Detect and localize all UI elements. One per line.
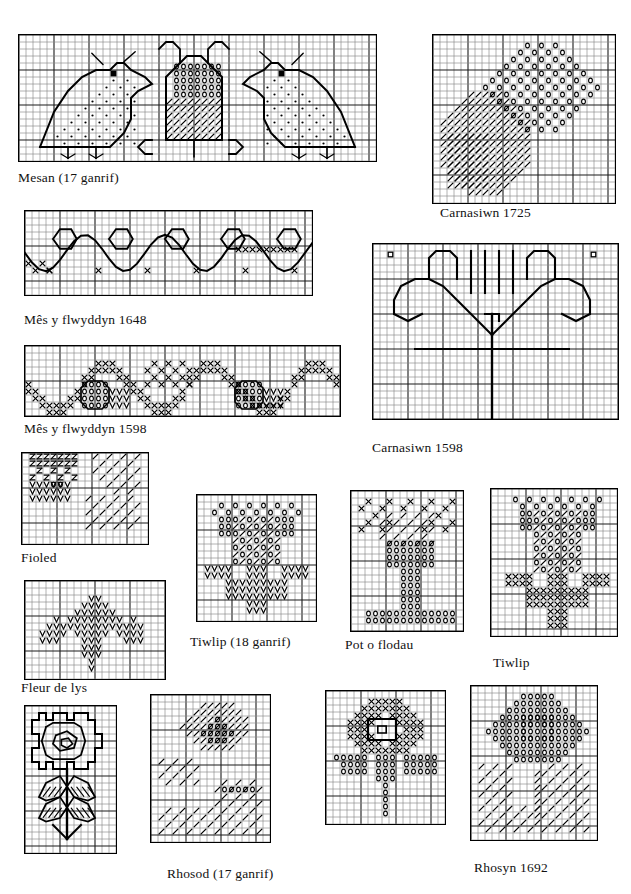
pattern-chart-rhosyn-plant [24, 705, 117, 854]
stitch-grid [21, 452, 149, 545]
stitch-symbols-layer [373, 244, 618, 419]
stitch-grid [372, 243, 619, 420]
stitch-symbols-layer [471, 686, 597, 840]
pattern-chart-fioled [21, 452, 149, 545]
stitch-symbols-layer [351, 491, 463, 631]
pattern-chart-rhosod-17-a [150, 694, 271, 843]
stitch-symbols-layer [433, 35, 615, 203]
stitch-grid [150, 694, 271, 843]
stitch-symbols-layer [326, 691, 445, 824]
stitch-grid [432, 34, 616, 204]
pattern-chart-pot-o-flodau [350, 490, 464, 632]
stitch-symbols-layer [151, 695, 270, 842]
stitch-symbols-layer [25, 706, 116, 853]
chart-caption-tiwlip-18: Tiwlip (18 ganrif) [190, 634, 291, 650]
stitch-grid [490, 488, 618, 637]
stitch-symbols-layer [25, 581, 165, 679]
chart-caption-fioled: Fioled [21, 550, 57, 566]
chart-caption-mes-y-flwyddyn-1598: Mês y flwyddyn 1598 [24, 421, 147, 437]
stitch-grid [18, 34, 377, 162]
stitch-grid [325, 690, 446, 825]
pattern-chart-rhosyn-1692 [470, 685, 598, 841]
stitch-grid [350, 490, 464, 632]
pattern-chart-fleur-de-lys [24, 580, 166, 680]
stitch-grid [24, 210, 313, 296]
chart-caption-fleur-de-lys: Fleur de lys [21, 680, 87, 696]
chart-caption-pot-o-flodau: Pot o flodau [345, 637, 413, 653]
chart-caption-carnasiwn-1598: Carnasiwn 1598 [372, 440, 463, 456]
stitch-symbols-layer [25, 211, 312, 295]
stitch-symbols-layer [22, 453, 148, 544]
pattern-chart-rhosod-17-b [325, 690, 446, 825]
chart-caption-rhosod-17-a: Rhosod (17 ganrif) [167, 866, 273, 882]
stitch-symbols-layer [197, 495, 316, 621]
pattern-chart-mes-y-flwyddyn-1648 [24, 210, 313, 296]
pattern-chart-carnasiwn-1725 [432, 34, 616, 204]
stitch-grid [470, 685, 598, 841]
stitch-symbols-layer [19, 35, 376, 161]
stitch-grid [24, 345, 341, 417]
pattern-chart-tiwlip [490, 488, 618, 637]
chart-caption-tiwlip: Tiwlip [493, 655, 530, 671]
pattern-chart-mesan-17 [18, 34, 377, 162]
pattern-chart-carnasiwn-1598 [372, 243, 619, 420]
stitch-grid [196, 494, 317, 622]
chart-caption-rhosyn-1692: Rhosyn 1692 [474, 860, 548, 876]
chart-caption-carnasiwn-1725: Carnasiwn 1725 [440, 205, 531, 221]
chart-caption-mesan-17: Mesan (17 ganrif) [18, 170, 119, 186]
pattern-chart-tiwlip-18 [196, 494, 317, 622]
stitch-grid [24, 580, 166, 680]
chart-caption-mes-y-flwyddyn-1648: Mês y flwyddyn 1648 [24, 312, 147, 328]
stitch-symbols-layer [25, 346, 340, 416]
stitch-grid [24, 705, 117, 854]
stitch-symbols-layer [491, 489, 617, 636]
pattern-chart-mes-y-flwyddyn-1598 [24, 345, 341, 417]
